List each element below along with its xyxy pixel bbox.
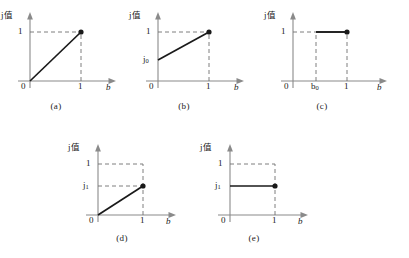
origin-label: 0 (284, 82, 289, 91)
chart-c-svg (263, 6, 393, 94)
y-tick-label-1: 1 (218, 159, 223, 168)
y-axis-title: j值 (264, 11, 276, 20)
data-endpoint-marker (140, 183, 145, 188)
y-axis-arrow-icon (27, 12, 33, 20)
data-line-series (30, 32, 81, 81)
panel-caption-e: (e) (228, 233, 280, 243)
y-axis-title-word: 值 (4, 10, 13, 20)
y-axis-title: j值 (1, 11, 13, 20)
data-endpoint-marker (272, 183, 277, 188)
chart-panel-a: j值 1 0 1 b (0, 6, 120, 94)
x-tick-label-1: 1 (272, 216, 277, 225)
panel-caption-d: (d) (96, 233, 148, 243)
y-axis-title: j值 (129, 11, 141, 20)
x-tick-label-1: 1 (140, 216, 145, 225)
origin-label: 0 (89, 216, 94, 225)
y-tick-label-1: 1 (281, 27, 286, 36)
y-tick-j0-subscript: 0 (146, 57, 149, 64)
chart-panel-d: j值 1 j1 0 1 b (64, 136, 194, 228)
panel-caption-a: (a) (30, 101, 82, 111)
y-axis-arrow-icon (155, 12, 161, 20)
y-tick-label-j1: j1 (215, 181, 221, 191)
y-tick-label-1: 1 (86, 159, 91, 168)
chart-a-svg (0, 6, 120, 94)
x-tick-label-1: 1 (206, 82, 211, 91)
data-endpoint-marker (344, 29, 349, 34)
x-tick-label-b0: b0 (311, 82, 319, 92)
x-axis-title: b (166, 217, 171, 226)
x-axis-title: b (234, 83, 239, 92)
x-axis-title: b (298, 217, 303, 226)
origin-label: 0 (149, 82, 154, 91)
x-tick-label-1: 1 (78, 82, 83, 91)
y-tick-label-1: 1 (18, 27, 23, 36)
y-axis-title-word: 值 (203, 142, 212, 152)
origin-label: 0 (221, 216, 226, 225)
y-tick-label-j1: j1 (83, 181, 89, 191)
chart-panel-b: j值 1 j0 0 1 b (128, 6, 248, 94)
data-endpoint-marker (206, 29, 211, 34)
y-tick-label-1: 1 (146, 27, 151, 36)
panel-caption-c: (c) (296, 101, 348, 111)
y-axis-title-word: 值 (71, 142, 80, 152)
y-axis-title: j值 (68, 143, 80, 152)
y-tick-j1-subscript: 1 (86, 183, 89, 190)
y-axis-arrow-icon (227, 144, 233, 152)
data-endpoint-marker (78, 29, 83, 34)
chart-b-svg (128, 6, 248, 94)
x-axis-title: b (106, 83, 111, 92)
x-tick-b0-subscript: 0 (316, 84, 319, 91)
y-axis-arrow-icon (95, 144, 101, 152)
figure-sheet: j值 1 0 1 b (a) j值 1 j0 0 1 b (b) (0, 0, 409, 258)
y-tick-label-j0: j0 (143, 55, 149, 65)
y-axis-arrow-icon (290, 12, 296, 20)
chart-panel-e: j值 1 j1 0 1 b (196, 136, 326, 228)
panel-caption-b: (b) (158, 101, 210, 111)
origin-label: 0 (21, 82, 26, 91)
y-axis-title: j值 (200, 143, 212, 152)
chart-panel-c: j值 1 0 b0 1 b (263, 6, 393, 94)
y-tick-j1-subscript: 1 (218, 183, 221, 190)
data-line-series (98, 186, 143, 215)
y-axis-title-word: 值 (132, 10, 141, 20)
x-axis-title: b (377, 83, 382, 92)
data-line-series (158, 32, 209, 60)
x-tick-label-1: 1 (344, 82, 349, 91)
y-axis-title-word: 值 (267, 10, 276, 20)
